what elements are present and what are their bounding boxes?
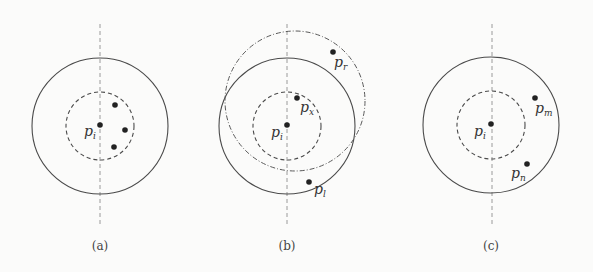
panel-c-center-label: pi (474, 123, 486, 141)
panel-b-point-x-label: px (300, 99, 314, 117)
panel-b-point-l (306, 179, 312, 185)
panel-c-point-n-label: pn (511, 165, 526, 183)
panel-b-point-x (294, 95, 300, 101)
figure: pi (a) pi px pr pl (b) pi pm pn (c) (0, 0, 593, 272)
panel-b-center-label: pi (271, 124, 283, 142)
panel-c-center-point (488, 121, 494, 127)
panel-a-caption: (a) (92, 239, 109, 253)
panel-b: pi px pr pl (b) (219, 24, 365, 253)
panel-a: pi (a) (32, 24, 168, 253)
panel-b-dashdot-circle (225, 31, 365, 171)
panel-a-center-point (97, 122, 103, 128)
panel-b-caption: (b) (278, 239, 295, 253)
panel-a-neighbor-point-1 (112, 102, 118, 108)
panel-a-center-label: pi (84, 123, 96, 141)
panel-c: pi pm pn (c) (423, 24, 559, 253)
panel-b-point-l-label: pl (314, 181, 326, 199)
panel-c-point-n (524, 161, 530, 167)
panel-b-center-point (284, 122, 290, 128)
panel-a-neighbor-point-3 (111, 144, 117, 150)
panel-b-point-r-label: pr (334, 54, 348, 72)
panel-c-point-m-label: pm (535, 100, 553, 118)
panel-c-caption: (c) (483, 239, 499, 253)
diagram-canvas: pi (a) pi px pr pl (b) pi pm pn (c) (0, 0, 593, 272)
panel-a-neighbor-point-2 (122, 127, 128, 133)
